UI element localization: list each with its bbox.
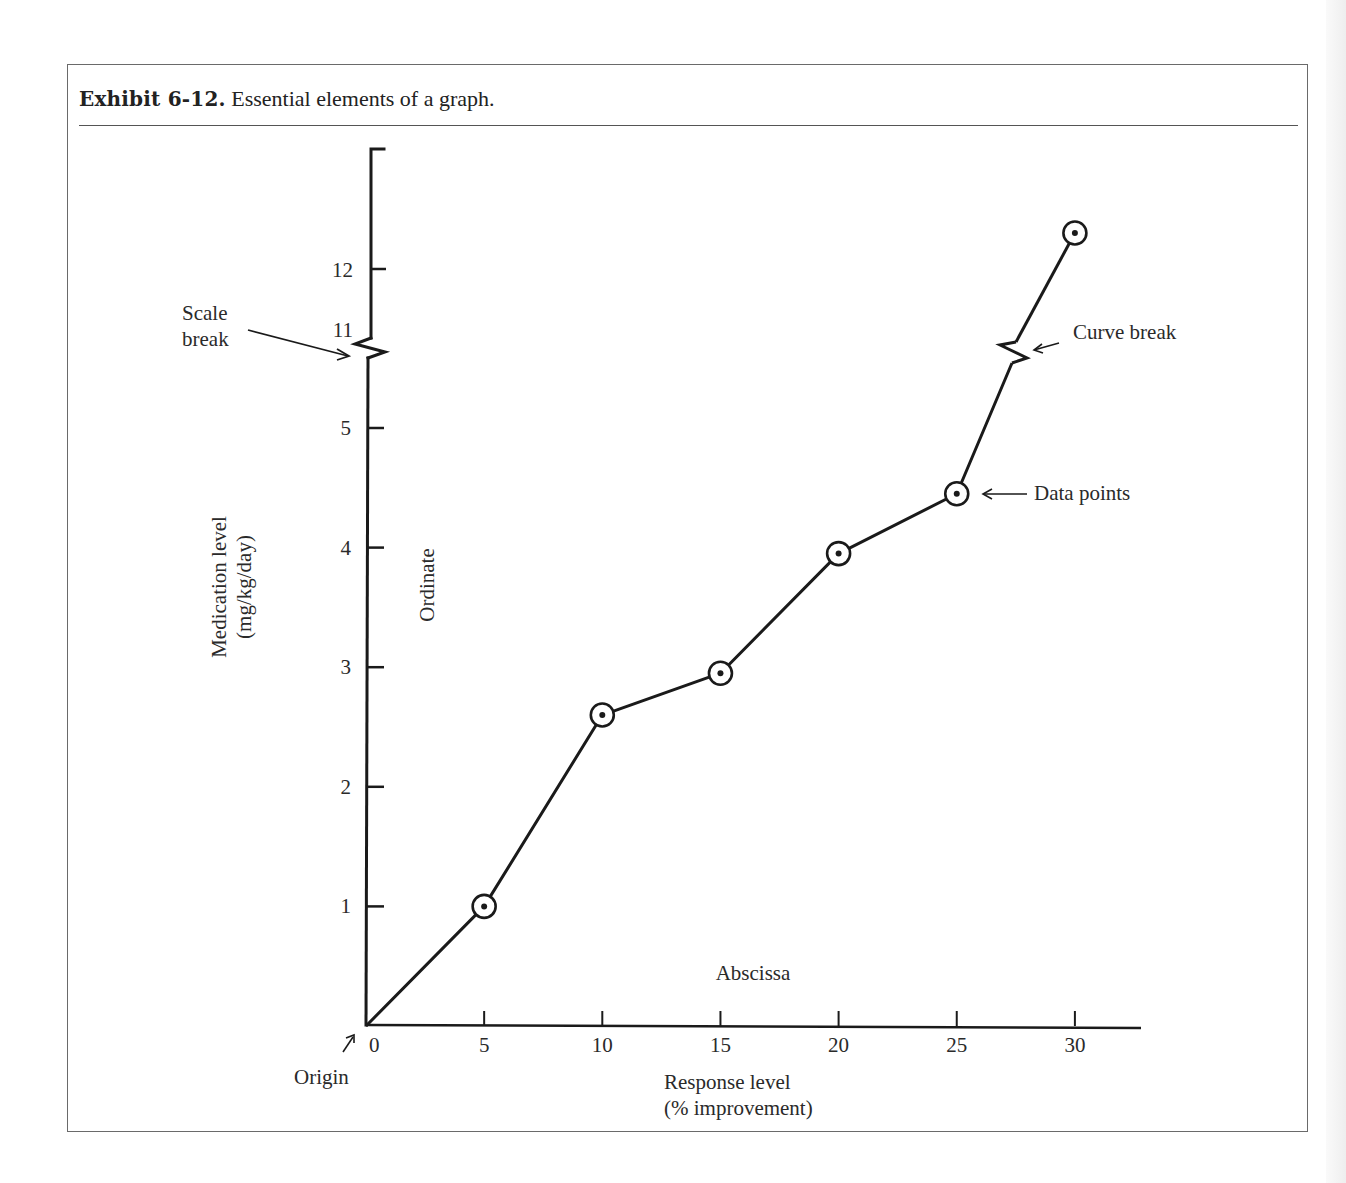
y-tick-label: 12: [332, 258, 353, 282]
origin-arrow-icon: [343, 1037, 353, 1052]
line-chart: 123451112 051015202530 Medication level …: [0, 0, 1346, 1183]
center-dot-icon: [954, 491, 960, 497]
center-dot-icon: [599, 712, 605, 718]
x-tick-label: 20: [828, 1033, 849, 1057]
x-axis-line: [366, 1025, 1141, 1028]
y-tick-label: 2: [341, 775, 352, 799]
x-tick-label: 25: [946, 1033, 967, 1057]
curve-break-icon: [1000, 342, 1027, 363]
y-axis-upper-segment: [371, 149, 384, 338]
x-tick-label: 15: [710, 1033, 731, 1057]
curve-break-label: Curve break: [1073, 320, 1177, 344]
data-point: [945, 482, 968, 505]
data-points-annotation: Data points: [983, 481, 1130, 505]
data-point: [709, 662, 732, 685]
data-point-markers: [473, 222, 1087, 918]
x-tick-label: 5: [479, 1033, 490, 1057]
y-tick-label: 1: [341, 894, 352, 918]
curve-break-annotation: Curve break: [1034, 320, 1177, 353]
y-tick-labels: 123451112: [332, 258, 353, 918]
data-points-label: Data points: [1034, 481, 1130, 505]
scale-break-label-line1: Scale: [182, 301, 227, 325]
data-line-lower: [366, 363, 1012, 1026]
scale-break-label-line2: break: [182, 327, 229, 351]
y-axis-title-line1: Medication level: [207, 516, 231, 658]
x-axis-title-line1: Response level: [664, 1070, 791, 1094]
y-axis-title-line2: (mg/kg/day): [232, 535, 256, 639]
data-point: [1063, 222, 1086, 245]
x-tick-labels: 051015202530: [369, 1033, 1085, 1057]
y-tick-label: 4: [341, 536, 352, 560]
center-dot-icon: [1072, 230, 1078, 236]
data-point: [591, 704, 614, 727]
y-tick-label: 11: [333, 318, 353, 342]
x-tick-label: 10: [592, 1033, 613, 1057]
origin-label: Origin: [294, 1065, 349, 1089]
x-ticks: [484, 1011, 1075, 1026]
abscissa-label: Abscissa: [716, 961, 791, 985]
x-axis-title-line2: (% improvement): [664, 1096, 813, 1120]
y-axis: [355, 149, 385, 1025]
scale-break-annotation: Scale break: [182, 301, 349, 360]
ordinate-label: Ordinate: [415, 548, 439, 621]
x-tick-label: 30: [1064, 1033, 1085, 1057]
x-axis: [366, 1025, 1141, 1028]
scale-break-icon: [355, 338, 385, 358]
y-axis-lower-segment: [366, 358, 368, 1025]
data-point: [827, 542, 850, 565]
origin-annotation: Origin: [294, 1035, 354, 1089]
center-dot-icon: [836, 551, 842, 557]
x-tick-label: 0: [369, 1033, 380, 1057]
data-line-upper: [1016, 233, 1075, 342]
y-tick-label: 5: [341, 416, 352, 440]
y-ticks: [367, 269, 386, 906]
y-tick-label: 3: [341, 655, 352, 679]
center-dot-icon: [481, 903, 487, 909]
center-dot-icon: [717, 670, 723, 676]
data-point: [473, 895, 496, 918]
